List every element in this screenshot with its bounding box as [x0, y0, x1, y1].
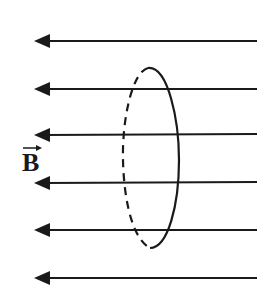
field-line-4 [34, 176, 257, 190]
current-loop [123, 68, 179, 248]
field-label-b: B [22, 150, 39, 176]
field-line-6 [34, 271, 257, 285]
field-line-2 [34, 82, 257, 96]
loop-back-dashed [123, 68, 150, 248]
field-line-1 [34, 34, 257, 48]
field-lines [34, 34, 257, 285]
field-line-3 [34, 128, 257, 142]
loop-front-solid [148, 68, 179, 248]
magnetic-field-diagram [0, 0, 274, 301]
field-line-5 [34, 223, 257, 237]
